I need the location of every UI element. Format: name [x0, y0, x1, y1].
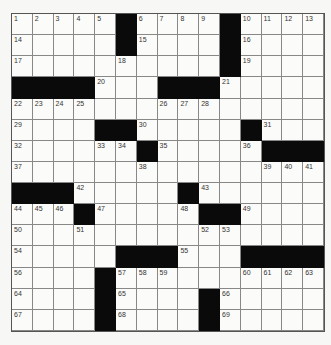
crossword-cell[interactable]	[74, 268, 95, 289]
crossword-cell[interactable]	[303, 99, 324, 120]
crossword-cell[interactable]	[262, 225, 283, 246]
crossword-cell[interactable]	[199, 56, 220, 77]
crossword-cell[interactable]	[54, 120, 75, 141]
crossword-cell[interactable]	[95, 99, 116, 120]
crossword-cell[interactable]	[178, 120, 199, 141]
crossword-cell[interactable]	[262, 183, 283, 204]
crossword-cell[interactable]	[282, 99, 303, 120]
crossword-cell[interactable]: 29	[12, 120, 33, 141]
crossword-cell[interactable]	[303, 35, 324, 56]
crossword-cell[interactable]	[54, 246, 75, 267]
crossword-cell[interactable]	[282, 310, 303, 331]
crossword-cell[interactable]	[178, 289, 199, 310]
crossword-cell[interactable]	[199, 268, 220, 289]
crossword-cell[interactable]	[74, 289, 95, 310]
crossword-cell[interactable]	[303, 77, 324, 98]
crossword-cell[interactable]	[54, 268, 75, 289]
crossword-cell[interactable]	[220, 99, 241, 120]
crossword-cell[interactable]	[33, 225, 54, 246]
crossword-cell[interactable]	[33, 289, 54, 310]
crossword-cell[interactable]: 2	[33, 14, 54, 35]
crossword-cell[interactable]: 16	[241, 35, 262, 56]
crossword-cell[interactable]	[241, 183, 262, 204]
crossword-cell[interactable]	[116, 183, 137, 204]
crossword-cell[interactable]	[303, 120, 324, 141]
crossword-cell[interactable]: 5	[95, 14, 116, 35]
crossword-cell[interactable]	[282, 183, 303, 204]
crossword-cell[interactable]	[262, 204, 283, 225]
crossword-cell[interactable]	[178, 56, 199, 77]
crossword-cell[interactable]: 66	[220, 289, 241, 310]
crossword-cell[interactable]	[158, 35, 179, 56]
crossword-cell[interactable]: 42	[74, 183, 95, 204]
crossword-cell[interactable]	[33, 141, 54, 162]
crossword-cell[interactable]: 10	[241, 14, 262, 35]
crossword-cell[interactable]	[74, 141, 95, 162]
crossword-cell[interactable]: 11	[262, 14, 283, 35]
crossword-cell[interactable]	[158, 289, 179, 310]
crossword-cell[interactable]: 13	[303, 14, 324, 35]
crossword-cell[interactable]: 18	[116, 56, 137, 77]
crossword-cell[interactable]: 43	[199, 183, 220, 204]
crossword-cell[interactable]	[262, 289, 283, 310]
crossword-cell[interactable]: 54	[12, 246, 33, 267]
crossword-cell[interactable]: 37	[12, 162, 33, 183]
crossword-cell[interactable]: 39	[262, 162, 283, 183]
crossword-cell[interactable]: 52	[199, 225, 220, 246]
crossword-cell[interactable]	[199, 141, 220, 162]
crossword-cell[interactable]: 23	[33, 99, 54, 120]
crossword-cell[interactable]: 53	[220, 225, 241, 246]
crossword-cell[interactable]	[137, 56, 158, 77]
crossword-cell[interactable]: 47	[95, 204, 116, 225]
crossword-cell[interactable]: 19	[241, 56, 262, 77]
crossword-cell[interactable]: 61	[262, 268, 283, 289]
crossword-cell[interactable]	[54, 141, 75, 162]
crossword-cell[interactable]: 32	[12, 141, 33, 162]
crossword-cell[interactable]	[54, 162, 75, 183]
crossword-cell[interactable]: 9	[199, 14, 220, 35]
crossword-cell[interactable]	[137, 310, 158, 331]
crossword-cell[interactable]	[282, 204, 303, 225]
crossword-cell[interactable]: 46	[54, 204, 75, 225]
crossword-cell[interactable]: 4	[74, 14, 95, 35]
crossword-cell[interactable]: 67	[12, 310, 33, 331]
crossword-cell[interactable]	[33, 310, 54, 331]
crossword-cell[interactable]	[95, 35, 116, 56]
crossword-cell[interactable]	[33, 268, 54, 289]
crossword-cell[interactable]	[178, 225, 199, 246]
crossword-cell[interactable]	[74, 310, 95, 331]
crossword-cell[interactable]: 58	[137, 268, 158, 289]
crossword-cell[interactable]	[54, 289, 75, 310]
crossword-cell[interactable]	[116, 162, 137, 183]
crossword-cell[interactable]	[262, 99, 283, 120]
crossword-cell[interactable]	[137, 77, 158, 98]
crossword-cell[interactable]	[241, 310, 262, 331]
crossword-cell[interactable]: 55	[178, 246, 199, 267]
crossword-cell[interactable]	[158, 162, 179, 183]
crossword-cell[interactable]	[262, 310, 283, 331]
crossword-cell[interactable]	[33, 56, 54, 77]
crossword-cell[interactable]: 64	[12, 289, 33, 310]
crossword-cell[interactable]	[303, 225, 324, 246]
crossword-cell[interactable]: 36	[241, 141, 262, 162]
crossword-cell[interactable]	[178, 268, 199, 289]
crossword-cell[interactable]	[282, 56, 303, 77]
crossword-cell[interactable]: 38	[137, 162, 158, 183]
crossword-cell[interactable]: 1	[12, 14, 33, 35]
crossword-cell[interactable]	[158, 225, 179, 246]
crossword-cell[interactable]	[116, 77, 137, 98]
crossword-cell[interactable]	[262, 56, 283, 77]
crossword-cell[interactable]	[199, 162, 220, 183]
crossword-cell[interactable]	[158, 120, 179, 141]
crossword-cell[interactable]: 25	[74, 99, 95, 120]
crossword-cell[interactable]: 35	[158, 141, 179, 162]
crossword-cell[interactable]	[95, 225, 116, 246]
crossword-cell[interactable]: 15	[137, 35, 158, 56]
crossword-cell[interactable]: 30	[137, 120, 158, 141]
crossword-cell[interactable]	[74, 35, 95, 56]
crossword-cell[interactable]	[74, 120, 95, 141]
crossword-cell[interactable]	[137, 99, 158, 120]
crossword-cell[interactable]: 49	[241, 204, 262, 225]
crossword-cell[interactable]	[137, 225, 158, 246]
crossword-cell[interactable]: 63	[303, 268, 324, 289]
